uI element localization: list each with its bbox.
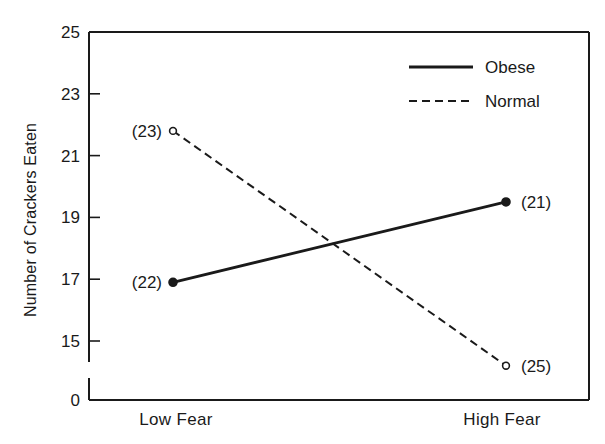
series-normal: (23)(25) <box>132 122 551 376</box>
x-category-labels: Low FearHigh Fear <box>139 410 540 429</box>
sample-size-label: (21) <box>521 193 551 212</box>
y-axis-title: Number of Crackers Eaten <box>22 123 39 317</box>
data-point-normal-1 <box>503 362 510 369</box>
legend-normal-label: Normal <box>485 92 540 111</box>
sample-size-label: (23) <box>132 122 162 141</box>
y-tick-label-23: 23 <box>61 85 80 104</box>
series-line-normal <box>173 131 506 366</box>
y-tick-label-19: 19 <box>61 208 80 227</box>
sample-size-label: (22) <box>132 273 162 292</box>
y-tick-label-17: 17 <box>61 270 80 289</box>
data-point-obese-1 <box>502 198 510 206</box>
y-tick-label-25: 25 <box>61 23 80 42</box>
sample-size-label: (25) <box>521 357 551 376</box>
y-tick-label-21: 21 <box>61 147 80 166</box>
series-line-obese <box>173 202 506 282</box>
y-ticks <box>89 94 100 341</box>
x-category-label-low-fear: Low Fear <box>139 410 212 429</box>
data-point-normal-0 <box>170 127 177 134</box>
plot-frame <box>89 32 589 400</box>
legend: Obese Normal <box>409 58 540 111</box>
series-group: (22)(21)(23)(25) <box>132 122 551 376</box>
y-tick-labels: 0151719212325 <box>61 23 80 410</box>
data-point-obese-0 <box>169 278 177 286</box>
y-tick-label-0: 0 <box>71 391 80 410</box>
line-chart: 0151719212325 Number of Crackers Eaten L… <box>0 0 605 444</box>
series-obese: (22)(21) <box>132 193 551 292</box>
x-category-label-high-fear: High Fear <box>463 410 540 429</box>
y-tick-label-15: 15 <box>61 332 80 351</box>
legend-obese-label: Obese <box>485 58 535 77</box>
